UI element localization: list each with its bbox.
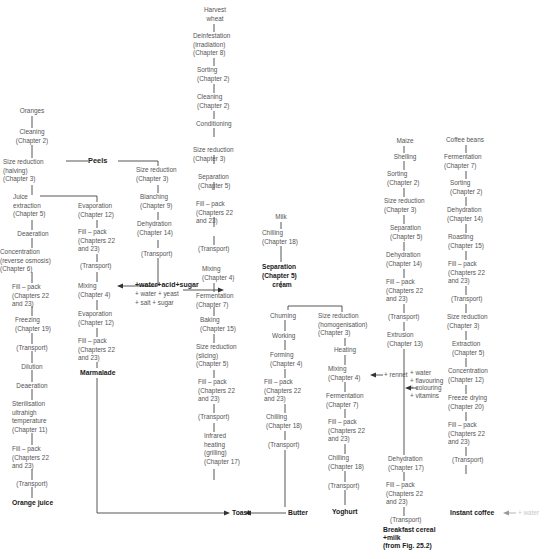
product-toast: Toast <box>232 509 250 518</box>
node-butter-working: Working <box>272 332 295 341</box>
node-coffee-size-reduction: Size reduction (Chapter 3) <box>447 313 488 330</box>
node-yog-transport: (Transport) <box>328 482 359 491</box>
node-oj-dilution: Dilution <box>8 363 56 372</box>
node-peel-blanching: Blanching (Chapter 9) <box>140 193 172 210</box>
node-peel-dehydration: Dehydration (Chapter 14) <box>137 220 173 237</box>
node-coffee-fermentation: Fermentation (Chapter 7) <box>444 153 482 170</box>
node-yog-size-reduction: Size reduction (homogenisation) (Chapter… <box>318 312 367 338</box>
node-oj-deaeration-2: Deaeration <box>8 382 56 391</box>
node-harvest-wheat: Harvest wheat <box>195 6 235 23</box>
additive-cereal: + water + flavouring + colouring + vitam… <box>410 369 443 399</box>
node-coffee-roasting: Roasting (Chapter 15) <box>448 233 484 250</box>
node-milk-separation: Separation (Chapter 5) <box>262 263 297 280</box>
node-coffee-fill-pack-2: Fill – pack (Chapters 22 and 23) <box>448 421 485 447</box>
node-oj-freezing: Freezing (Chapter 19) <box>15 316 51 333</box>
node-cereal-separation: Separation (Chapter 5) <box>390 224 422 241</box>
node-coffee-freeze-drying: Freeze drying (Chapter 20) <box>448 394 487 411</box>
node-oj-concentration: Concentration (reverse osmosis) (Chapter… <box>0 248 51 274</box>
product-yoghurt: Yoghurt <box>332 508 358 517</box>
node-wheat-cleaning: Cleaning (Chapter 2) <box>197 93 229 110</box>
node-coffee-concentration: Concentration (Chapter 12) <box>448 367 488 384</box>
node-oj-fill-pack: Fill – pack (Chapters 22 and 23) <box>12 283 49 309</box>
node-milk: Milk <box>266 213 296 222</box>
node-yog-mixing: Mixing (Chapter 4) <box>328 365 360 382</box>
node-cereal-transport-2: (Transport) <box>390 516 421 525</box>
node-peel-transport: (Transport) <box>141 250 172 259</box>
node-butter-fill-pack: Fill – pack (Chapters 22 and 23) <box>264 378 301 404</box>
node-peel-size-reduction: Size reduction (Chapter 3) <box>136 166 177 183</box>
node-marm-evaporation-2: Evaporation (Chapter 12) <box>78 310 114 327</box>
node-oj-transport-2: (Transport) <box>8 480 56 489</box>
node-cereal-dehydration-2: Dehydration (Chapter 17) <box>388 455 424 472</box>
node-cereal-fill-pack: Fill – pack (Chapters 22 and 23) <box>386 278 423 304</box>
node-toast-mixing: Mixing (Chapter 4) <box>202 265 234 282</box>
node-cereal-dehydration: Dehydration (Chapter 14) <box>386 251 422 268</box>
node-cereal-shelling: Shelling <box>386 153 424 162</box>
node-oj-fill-pack-2: Fill – pack (Chapters 22 and 23) <box>12 445 49 471</box>
node-oj-transport: (Transport) <box>8 344 56 353</box>
node-marm-mixing: Mixing (Chapter 4) <box>78 282 110 299</box>
node-milk-chilling: Chilling (Chapter 18) <box>262 229 298 246</box>
faded-input-label: + water <box>518 509 539 518</box>
node-oj-juice-extraction: Juice extraction (Chapter 5) <box>13 193 45 219</box>
node-butter-transport: (Transport) <box>268 441 299 450</box>
label-peels: Peels <box>88 157 107 166</box>
node-yog-heating: Heating <box>334 346 356 355</box>
product-butter: Butter <box>288 509 308 518</box>
node-oranges: Oranges <box>12 107 52 116</box>
node-yog-chilling: Chilling (Chapter 18) <box>328 454 364 471</box>
node-toast-infrared-heating: Infrared heating (grilling) (Chapter 17) <box>204 432 240 466</box>
additive-bread: + water + yeast + salt + sugar <box>135 290 179 307</box>
node-coffee-transport-2: (Transport) <box>452 456 483 465</box>
node-coffee-transport: (Transport) <box>451 295 482 304</box>
node-wheat-fill-pack: Fill – pack (Chapters 22 and 23) <box>196 200 233 226</box>
node-coffee-extraction: Extraction (Chapter 5) <box>452 340 484 357</box>
additive-marmalade: +water+acid+sugar <box>135 281 199 290</box>
node-cereal-transport: (Transport) <box>388 313 419 322</box>
node-maize: Maize <box>390 137 420 146</box>
node-oj-cleaning: Cleaning (Chapter 2) <box>8 128 56 145</box>
node-marm-evaporation: Evaporation (Chapter 12) <box>78 202 114 219</box>
node-toast-size-reduction: Size reduction (slicing) (Chapter 5) <box>196 343 237 369</box>
node-wheat-deinfestation: Deinfestation (irradiation) (Chapter 8) <box>193 32 230 58</box>
node-coffee-fill-pack: Fill – pack (Chapters 22 and 23) <box>448 260 485 286</box>
node-oj-sterilisation: Sterilisation ultrahigh temperature (Cha… <box>12 400 47 434</box>
node-wheat-conditioning: Conditioning <box>196 120 232 129</box>
node-cereal-sorting: Sorting (Chapter 2) <box>387 170 419 187</box>
node-cream: cream <box>266 281 298 290</box>
node-cereal-size-reduction: Size reduction (Chapter 3) <box>384 197 425 214</box>
node-butter-chilling: Chilling (Chapter 18) <box>266 413 302 430</box>
node-oj-size-reduction: Size reduction (halving) (Chapter 3) <box>3 158 44 184</box>
node-wheat-separation: Separation (Chapter 5) <box>198 173 230 190</box>
node-cereal-extrusion: Extrusion (Chapter 13) <box>387 331 423 348</box>
node-wheat-sorting: Sorting (Chapter 2) <box>197 66 229 83</box>
product-instant-coffee: Instant coffee <box>450 509 494 518</box>
node-coffee-dehydration: Dehydration (Chapter 14) <box>447 206 483 223</box>
node-yog-fill-pack: Fill – pack (Chapters 22 and 23) <box>328 418 365 444</box>
node-yog-fermentation: Fermentation (Chapter 7) <box>326 392 364 409</box>
node-coffee-sorting: Sorting (Chapter 2) <box>450 179 482 196</box>
node-butter-churning: Churning <box>270 312 296 321</box>
node-wheat-transport: (Transport) <box>198 245 229 254</box>
node-marm-fill-pack-2: Fill – pack (Chapters 22 and 23) <box>78 337 115 363</box>
product-breakfast-cereal: Breakfast cereal +milk (from Fig. 25.2) <box>383 526 436 550</box>
product-orange-juice: Orange juice <box>12 499 53 508</box>
node-marm-fill-pack: Fill – pack (Chapters 22 and 23) <box>78 228 115 254</box>
node-toast-fermentation: Fermentation (Chapter 7) <box>196 292 234 309</box>
node-toast-transport: (Transport) <box>198 413 229 422</box>
node-toast-fill-pack: Fill – pack (Chapters 22 and 23) <box>198 378 235 404</box>
node-toast-baking: Baking (Chapter 15) <box>200 316 236 333</box>
node-cereal-fill-pack-2: Fill – pack (Chapters 22 and 23) <box>386 481 423 507</box>
product-marmalade: Marmalade <box>80 369 116 378</box>
additive-rennet: + rennet <box>384 371 408 380</box>
node-coffee-beans: Coffee beans <box>446 136 484 145</box>
node-oj-deaeration: Deaeration <box>10 230 56 239</box>
node-butter-forming: Forming (Chapter 4) <box>270 351 302 368</box>
node-wheat-size-reduction: Size reduction (Chapter 3) <box>193 146 234 163</box>
node-marm-transport: (Transport) <box>80 262 111 271</box>
